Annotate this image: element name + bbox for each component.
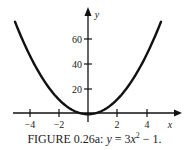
y-axis-label: y bbox=[94, 9, 100, 20]
x-axis-arrow-icon bbox=[174, 110, 182, 117]
x-tick-label: 2 bbox=[115, 119, 120, 130]
caption-rhs-a: = 3 bbox=[112, 132, 131, 146]
caption-rhs-b: − 1. bbox=[140, 132, 162, 146]
chart: −4 −2 2 4 20 40 60 x y bbox=[0, 0, 189, 130]
caption-prefix: FIGURE 0.26a: bbox=[27, 132, 106, 146]
figure-caption: FIGURE 0.26a: y = 3x2 − 1. bbox=[0, 131, 189, 147]
y-tick-label: 60 bbox=[72, 34, 82, 45]
x-tick-label: 4 bbox=[145, 119, 150, 130]
y-tick-label: 20 bbox=[72, 84, 82, 95]
x-tick-label: −4 bbox=[25, 119, 36, 130]
x-tick-label: −2 bbox=[54, 119, 65, 130]
x-axis-label: x bbox=[167, 119, 173, 130]
y-tick-label: 40 bbox=[72, 59, 82, 70]
y-axis-arrow-icon bbox=[85, 7, 92, 16]
